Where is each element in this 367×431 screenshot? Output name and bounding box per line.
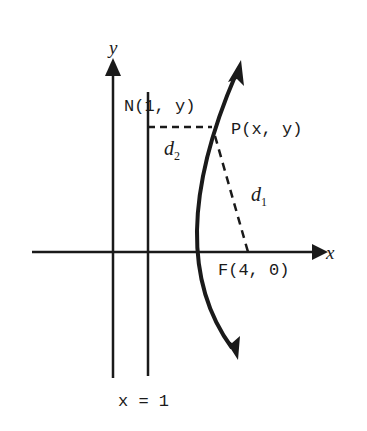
x-axis-label: x bbox=[326, 243, 334, 262]
point-n-label: N(1, y) bbox=[124, 98, 195, 115]
parabola-bottom-arrow-icon bbox=[224, 336, 240, 360]
y-axis-label: y bbox=[109, 38, 117, 57]
point-p-label: P(x, y) bbox=[231, 121, 302, 138]
directrix-label: x = 1 bbox=[118, 393, 169, 410]
y-axis-arrow-icon bbox=[105, 58, 121, 76]
parabola-curve bbox=[197, 74, 236, 348]
d2-label: d2 bbox=[164, 138, 180, 162]
point-f-label: F(4, 0) bbox=[218, 262, 289, 279]
diagram-canvas bbox=[0, 0, 367, 431]
d1-segment bbox=[215, 136, 248, 252]
d1-label: d1 bbox=[251, 184, 267, 208]
